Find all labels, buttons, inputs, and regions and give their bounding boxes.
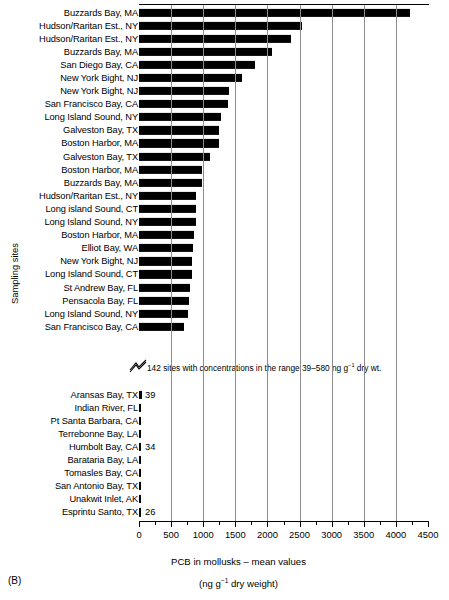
bar	[139, 61, 255, 69]
axis-tick	[139, 522, 140, 527]
axis-break-icon	[129, 359, 149, 373]
gridline	[203, 336, 204, 387]
upper-bar-rows: Buzzards Bay, MAHudson/Raritan Est., NYH…	[0, 6, 449, 333]
gridline	[364, 336, 365, 387]
x-tick-label: 1500	[225, 529, 246, 540]
axis-tick	[364, 522, 365, 527]
bar-row: Pt Santa Barbara, CA	[0, 414, 449, 427]
gridline	[267, 4, 268, 336]
axis-tick	[412, 522, 413, 525]
bar-category-label: New York Bight, NJ	[60, 256, 138, 266]
bar-category-label: Galveston Bay, TX	[63, 152, 138, 162]
bar-category-label: Galveston Bay, TX	[63, 125, 138, 135]
x-axis-title: PCB in mollusks – mean values	[14, 556, 449, 567]
lower-bar-rows: Aransas Bay, TX39Indian River, FLPt Sant…	[0, 388, 449, 519]
bar-category-label: San Diego Bay, CA	[60, 60, 138, 70]
bar	[139, 495, 141, 503]
bar-category-label: Esprintu Santo, TX	[62, 507, 138, 517]
bar-row: Boston Harbor, MA	[0, 163, 449, 176]
bar-value-label: 34	[145, 442, 155, 452]
bar-row: San Diego Bay, CA	[0, 58, 449, 71]
bar	[139, 508, 141, 516]
bar	[139, 404, 141, 412]
bar	[139, 270, 192, 278]
bar-category-label: New York Bight, NJ	[60, 73, 138, 83]
x-tick-label: 1000	[193, 529, 214, 540]
gridline	[332, 386, 333, 521]
bar-category-label: Aransas Bay, TX	[71, 390, 138, 400]
gridline	[300, 4, 301, 336]
gridline	[364, 4, 365, 336]
x-tick-label: 0	[136, 529, 141, 540]
x-tick-label: 4000	[385, 529, 406, 540]
gridline	[396, 336, 397, 387]
bar	[139, 482, 141, 490]
bar-category-label: Buzzards Bay, MA	[64, 47, 138, 57]
bar-value-label: 39	[145, 390, 155, 400]
x-tick-label: 4500	[418, 529, 439, 540]
bar-row: Buzzards Bay, MA	[0, 176, 449, 189]
x-tick-label: 2500	[289, 529, 310, 540]
gridline	[300, 336, 301, 387]
axis-tick	[219, 522, 220, 525]
bar-category-label: Unakwit Inlet, AK	[69, 494, 138, 504]
bar-row: New York Bight, NJ	[0, 85, 449, 98]
bar-row: Hudson/Raritan Est., NY	[0, 32, 449, 45]
bar-category-label: Pensacola Bay, FL	[62, 296, 138, 306]
bar-row: Galveston Bay, TX	[0, 124, 449, 137]
bar-category-label: Indian River, FL	[74, 403, 138, 413]
bar-category-label: Long Island Sound, NY	[44, 309, 138, 319]
bar-category-label: Buzzards Bay, MA	[64, 178, 138, 188]
axis-tick	[284, 522, 285, 525]
axis-tick	[380, 522, 381, 525]
bar-row: Terrebonne Bay, LA	[0, 427, 449, 440]
bar-row: Indian River, FL	[0, 401, 449, 414]
gridline	[171, 336, 172, 387]
bar-row: St Andrew Bay, FL	[0, 281, 449, 294]
gridline	[332, 336, 333, 387]
axis-tick	[332, 522, 333, 527]
axis-tick	[316, 522, 317, 525]
bar-row: Humbolt Bay, CA34	[0, 440, 449, 453]
gridline	[203, 386, 204, 521]
bar	[139, 310, 188, 318]
x-axis-units: (ng g−1 dry weight)	[14, 577, 449, 589]
axis-tick	[187, 522, 188, 525]
bar-row: New York Bight, NJ	[0, 71, 449, 84]
axis-tick	[300, 522, 301, 527]
panel-letter: (B)	[8, 575, 21, 586]
bar	[139, 417, 141, 425]
bar	[139, 244, 193, 252]
bar-category-label: Long Island Sound, NY	[44, 217, 138, 227]
bar-row: Long Island Sound, NY	[0, 307, 449, 320]
bar	[139, 390, 142, 398]
bar-row: Pensacola Bay, FL	[0, 294, 449, 307]
axis-tick	[203, 522, 204, 527]
bar-row: Elliot Bay, WA	[0, 242, 449, 255]
bar	[139, 8, 410, 16]
bar-row: Long Island Sound, CT	[0, 268, 449, 281]
x-tick-label: 500	[163, 529, 179, 540]
gridline	[300, 386, 301, 521]
bar-category-label: Buzzards Bay, MA	[64, 8, 138, 18]
bar-category-label: Long island Sound, CT	[46, 204, 138, 214]
bar	[139, 443, 141, 451]
axis-break-note: 142 sites with concentrations in the ran…	[147, 362, 381, 373]
bar	[139, 469, 141, 477]
bar-category-label: New York Bight, NJ	[60, 86, 138, 96]
bar	[139, 152, 210, 160]
bar-row: Long Island Sound, NY	[0, 111, 449, 124]
bar-row: Buzzards Bay, MA	[0, 45, 449, 58]
gridline	[235, 4, 236, 336]
bar-category-label: St Andrew Bay, FL	[63, 283, 138, 293]
bar-category-label: Barataria Bay, LA	[68, 455, 138, 465]
gridline	[396, 4, 397, 336]
bar-category-label: Tomasles Bay, CA	[64, 468, 138, 478]
bar-row: Esprintu Santo, TX26	[0, 506, 449, 519]
bar-row: San Francisco Bay, CA	[0, 320, 449, 333]
gridline	[267, 336, 268, 387]
bar	[139, 139, 219, 147]
bar	[139, 257, 192, 265]
bar-category-label: Boston Harbor, MA	[61, 138, 138, 148]
bar-category-label: Long Island Sound, NY	[44, 112, 138, 122]
